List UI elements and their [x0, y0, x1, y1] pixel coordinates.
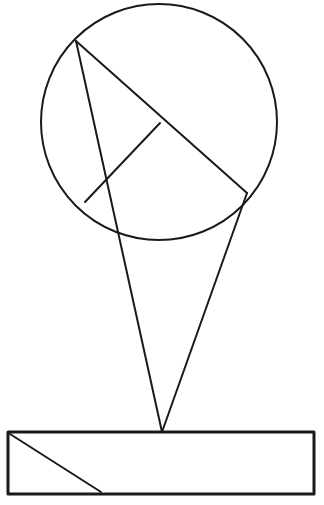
geometric-drawing: [0, 0, 324, 505]
circle-outline: [41, 4, 277, 240]
cone-right-side: [162, 193, 247, 432]
cone-left-side: [76, 41, 162, 432]
chord-long-diagonal: [76, 41, 247, 193]
rectangle-diagonal: [10, 434, 101, 492]
figure-canvas: [0, 0, 324, 505]
